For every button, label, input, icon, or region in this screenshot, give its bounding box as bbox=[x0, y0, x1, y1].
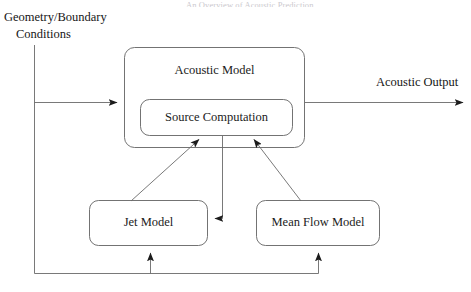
mean-flow-model-label: Mean Flow Model bbox=[256, 215, 380, 229]
diagram-canvas bbox=[0, 0, 471, 292]
mean-flow-to-source-arrow bbox=[254, 140, 301, 202]
jet-to-source-arrow bbox=[131, 140, 199, 202]
source-to-jet-feedback-arrow bbox=[215, 136, 223, 219]
source-computation-label: Source Computation bbox=[140, 110, 293, 124]
geometry-boundary-label-line2: Conditions bbox=[16, 27, 71, 42]
figure-container: An Overview of Acoustic Prediction Geome… bbox=[0, 0, 471, 292]
acoustic-output-label: Acoustic Output bbox=[376, 75, 458, 90]
jet-model-label: Jet Model bbox=[89, 215, 208, 229]
acoustic-model-label: Acoustic Model bbox=[124, 63, 305, 77]
geometry-boundary-label-line1: Geometry/Boundary bbox=[4, 10, 107, 25]
